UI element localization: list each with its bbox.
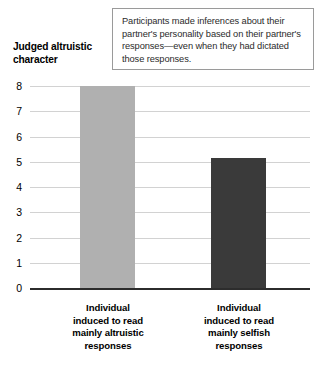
gridline-3 bbox=[30, 212, 310, 213]
gridline-1 bbox=[30, 263, 310, 264]
gridline-7 bbox=[30, 111, 310, 112]
x-category-line: Individual bbox=[48, 302, 168, 315]
x-axis-baseline bbox=[30, 288, 310, 290]
x-category-line: responses bbox=[48, 340, 168, 353]
x-category-line: responses bbox=[179, 340, 299, 353]
y-tick-label-1: 1 bbox=[0, 258, 22, 268]
y-tick-label-0: 0 bbox=[0, 283, 22, 293]
y-tick-label-5: 5 bbox=[0, 157, 22, 167]
x-category-line: induced to read bbox=[48, 315, 168, 328]
gridline-4 bbox=[30, 187, 310, 188]
gridline-5 bbox=[30, 162, 310, 163]
annotation-callout-box: Participants made inferences about their… bbox=[112, 8, 314, 70]
x-category-line: mainly altruistic bbox=[48, 327, 168, 340]
plot-area: 8 7 6 5 4 3 2 1 0 bbox=[30, 86, 310, 288]
bar-altruistic bbox=[80, 86, 135, 288]
x-category-line: mainly selfish bbox=[179, 327, 299, 340]
y-tick-label-3: 3 bbox=[0, 207, 22, 217]
annotation-text: Participants made inferences about their… bbox=[122, 15, 305, 65]
y-tick-label-6: 6 bbox=[0, 132, 22, 142]
y-tick-label-8: 8 bbox=[0, 81, 22, 91]
bar-chart-figure: Participants made inferences about their… bbox=[0, 0, 326, 375]
y-tick-label-4: 4 bbox=[0, 182, 22, 192]
x-category-line: induced to read bbox=[179, 315, 299, 328]
gridline-8 bbox=[30, 86, 310, 87]
x-category-label-selfish: Individual induced to read mainly selfis… bbox=[179, 302, 299, 352]
y-tick-label-7: 7 bbox=[0, 106, 22, 116]
gridline-6 bbox=[30, 137, 310, 138]
x-category-label-altruistic: Individual induced to read mainly altrui… bbox=[48, 302, 168, 352]
y-tick-label-2: 2 bbox=[0, 233, 22, 243]
gridline-2 bbox=[30, 238, 310, 239]
y-axis-title: Judged altruistic character bbox=[13, 40, 109, 67]
bar-selfish bbox=[211, 158, 266, 288]
x-category-line: Individual bbox=[179, 302, 299, 315]
